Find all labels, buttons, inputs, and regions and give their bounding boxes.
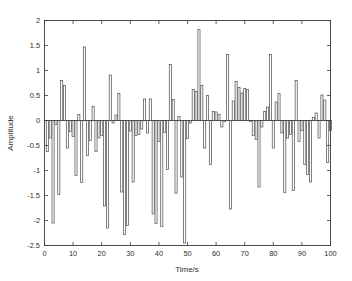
y-axis-title: Amplitude — [6, 115, 15, 151]
y-tick-label: -2 — [33, 216, 40, 225]
y-tick-label: 1.5 — [30, 41, 40, 50]
x-axis-title: Time/s — [175, 265, 199, 274]
x-tick-label: 40 — [155, 249, 163, 258]
figure-container: 0102030405060708090100 -2.5-2-1.5-1-0.50… — [0, 0, 352, 281]
bar-chart: 0102030405060708090100 -2.5-2-1.5-1-0.50… — [0, 0, 352, 281]
y-tick-label: -0.5 — [27, 141, 40, 150]
y-tick-label: -1 — [33, 166, 40, 175]
x-tick-label: 100 — [324, 249, 336, 258]
x-tick-label: 80 — [269, 249, 277, 258]
x-tick-label: 20 — [98, 249, 106, 258]
y-tick-label: 0 — [36, 116, 40, 125]
y-tick-label: 2 — [36, 16, 40, 25]
x-tick-label: 60 — [212, 249, 220, 258]
y-tick-label: 1 — [36, 66, 40, 75]
x-tick-label: 90 — [298, 249, 306, 258]
x-tick-label: 10 — [69, 249, 77, 258]
y-tick-label: 0.5 — [30, 91, 40, 100]
x-tick-label: 70 — [241, 249, 249, 258]
x-tick-label: 30 — [126, 249, 134, 258]
y-tick-label: -2.5 — [27, 241, 40, 250]
x-tick-label: 50 — [183, 249, 191, 258]
plot-background — [0, 0, 352, 281]
y-tick-label: -1.5 — [27, 191, 40, 200]
x-tick-label: 0 — [42, 249, 46, 258]
